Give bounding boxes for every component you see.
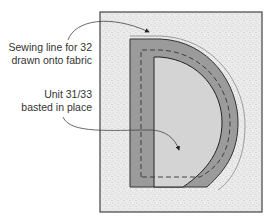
sewing-line-label-line-1: Sewing line for 32: [9, 41, 92, 54]
quilt-diagram: Sewing line for 32 drawn onto fabric Uni…: [0, 0, 270, 223]
unit-basted-label: Unit 31/33 basted in place: [21, 88, 92, 114]
unit-basted-label-line-1: Unit 31/33: [21, 88, 92, 101]
sewing-line-label-line-2: drawn onto fabric: [9, 54, 92, 67]
sewing-line-label: Sewing line for 32 drawn onto fabric: [9, 41, 92, 67]
unit-basted-label-line-2: basted in place: [21, 101, 92, 114]
